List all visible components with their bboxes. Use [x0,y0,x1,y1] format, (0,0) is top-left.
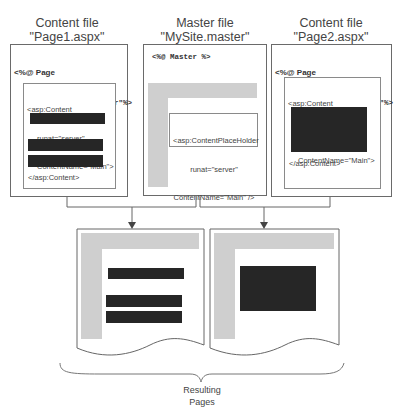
result-page-1 [77,229,204,355]
connector-left [67,197,196,207]
result-page-2 [210,229,339,355]
arrow-right-head-icon [260,222,268,229]
resulting-pages-label: Resulting Pages [162,384,242,408]
resulting-pages-line1: Resulting [162,384,242,396]
resulting-pages-line2: Pages [162,396,242,408]
connectors-and-results [0,0,395,409]
connector-right [200,197,330,207]
result-brace [60,363,344,382]
arrow-left-head-icon [128,222,136,229]
